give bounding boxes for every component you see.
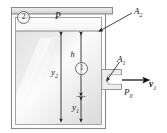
label-area-outlet: A1 bbox=[117, 55, 125, 67]
label-ambient-pressure: P0 bbox=[124, 88, 132, 100]
label-height-y1: y1 bbox=[72, 103, 79, 115]
label-tank-pressure: P bbox=[55, 12, 61, 22]
label-outlet-velocity: v1 bbox=[149, 80, 156, 91]
fluid-body bbox=[16, 31, 101, 124]
label-height-h: h bbox=[71, 50, 75, 59]
outlet-nozzle bbox=[102, 70, 122, 90]
tank-flow-diagram: 2 1 P A2 h y2 y1 A1 P0 v1 bbox=[0, 0, 167, 133]
station-marker-1: 1 bbox=[75, 62, 88, 75]
label-height-y2: y2 bbox=[51, 68, 58, 80]
station-marker-2: 2 bbox=[17, 11, 30, 24]
label-area-surface: A2 bbox=[134, 7, 142, 19]
